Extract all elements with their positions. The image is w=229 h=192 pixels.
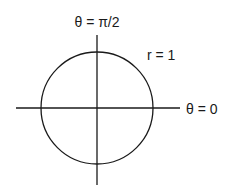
radius-label: r = 1 xyxy=(147,47,176,63)
horizontal-axis-label: θ = 0 xyxy=(186,101,218,117)
diagram-svg: θ = π/2 r = 1 θ = 0 xyxy=(0,0,229,192)
vertical-axis-label: θ = π/2 xyxy=(74,14,119,30)
polar-diagram: θ = π/2 r = 1 θ = 0 xyxy=(0,0,229,192)
